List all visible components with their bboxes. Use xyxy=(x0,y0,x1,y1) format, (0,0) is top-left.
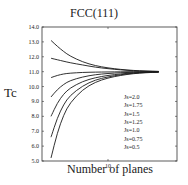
legend-entry: Js=2.0 xyxy=(124,94,140,100)
series-line-0 xyxy=(51,40,159,71)
y-tick-label: 12.0 xyxy=(29,54,40,60)
y-tick-label: 13.0 xyxy=(29,39,40,45)
legend-entry: Js=1.25 xyxy=(124,119,143,125)
y-tick-label: 6.0 xyxy=(32,143,40,149)
plot-area: 5.06.07.08.09.010.011.012.013.014.010Js=… xyxy=(0,0,188,185)
plot-frame xyxy=(42,27,177,161)
series-line-1 xyxy=(51,58,159,71)
y-tick-label: 14.0 xyxy=(29,24,40,30)
x-tick-label: 10 xyxy=(105,163,111,169)
y-tick-label: 11.0 xyxy=(29,69,39,75)
y-tick-label: 8.0 xyxy=(32,113,40,119)
series-line-6 xyxy=(51,72,159,158)
legend-entry: Js=1.75 xyxy=(124,102,143,108)
legend-entry: Js=1.5 xyxy=(124,111,140,117)
legend-entry: Js=0.75 xyxy=(124,136,143,142)
legend-entry: Js=0.5 xyxy=(124,144,140,150)
y-tick-label: 10.0 xyxy=(29,84,40,90)
legend-entry: Js=1.0 xyxy=(124,127,140,133)
y-tick-label: 7.0 xyxy=(32,128,40,134)
y-tick-label: 9.0 xyxy=(32,98,40,104)
y-tick-label: 5.0 xyxy=(32,158,40,164)
